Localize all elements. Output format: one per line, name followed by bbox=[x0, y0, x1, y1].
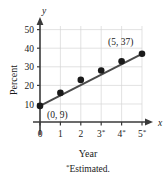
estimated-marker-4: * bbox=[122, 128, 126, 136]
scatter-plot: 10 20 30 40 50 0 1 2 3* 4* 5* y x bbox=[0, 0, 168, 183]
data-point-4 bbox=[118, 58, 125, 65]
y-tick-label-30: 30 bbox=[25, 62, 35, 72]
footnote: *Estimated. bbox=[66, 163, 110, 175]
x-tick-label-5: 5* bbox=[138, 128, 147, 140]
trend-line bbox=[40, 54, 142, 106]
y-tick-label-10: 10 bbox=[25, 100, 35, 110]
x-axis-title: Year bbox=[79, 148, 98, 159]
y-axis-variable-symbol: y bbox=[41, 6, 47, 16]
y-tick-label-40: 40 bbox=[25, 44, 35, 54]
chart-figure: 10 20 30 40 50 0 1 2 3* 4* 5* y x bbox=[0, 0, 168, 183]
x-tick-label-2: 2 bbox=[78, 129, 83, 139]
x-tick-label-1: 1 bbox=[58, 129, 63, 139]
y-axis bbox=[37, 17, 44, 135]
annotation-first-point: (0, 9) bbox=[47, 110, 68, 121]
x-tick-label-0: 0 bbox=[38, 129, 43, 139]
data-point-2 bbox=[78, 77, 85, 84]
estimated-marker-5: * bbox=[143, 128, 147, 136]
data-point-1 bbox=[57, 90, 64, 97]
y-axis-title: Percent bbox=[8, 65, 19, 95]
annotation-last-point: (5, 37) bbox=[108, 37, 133, 48]
y-tick-label-50: 50 bbox=[25, 25, 35, 35]
data-point-5 bbox=[139, 51, 146, 58]
data-point-3 bbox=[98, 67, 105, 74]
x-tick-label-3: 3* bbox=[97, 128, 106, 140]
y-tick-label-20: 20 bbox=[25, 81, 35, 91]
data-point-0 bbox=[37, 103, 44, 110]
estimated-marker-3: * bbox=[102, 128, 106, 136]
x-tick-label-4: 4* bbox=[117, 128, 126, 140]
x-axis-variable-symbol: x bbox=[157, 118, 163, 128]
